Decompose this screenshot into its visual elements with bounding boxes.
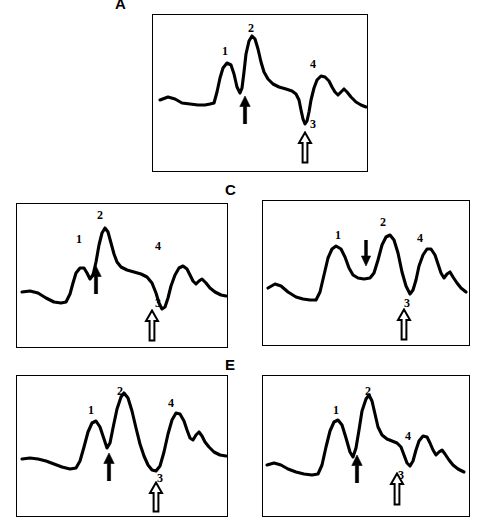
peak-label-4: 4 [405, 430, 411, 442]
panel-e: E1243 [0, 0, 485, 532]
figure-canvas: A1243B1243C1243D1243E1243 [0, 0, 485, 532]
arrow-marker-solid-up-icon [349, 455, 365, 483]
arrow-marker-open-up-icon [389, 472, 405, 506]
peak-label-1: 1 [333, 404, 339, 416]
peak-label-2: 2 [365, 385, 371, 397]
trace-e [0, 0, 485, 532]
